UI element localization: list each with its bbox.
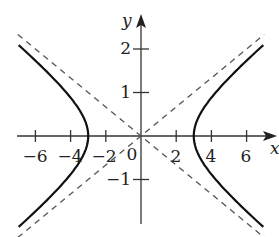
x-tick-label: 6 xyxy=(241,146,252,166)
x-tick-label: 4 xyxy=(206,146,217,166)
x-axis-label: x xyxy=(270,138,279,158)
origin-label: 0 xyxy=(127,144,138,164)
y-tick-label: 1 xyxy=(120,82,131,102)
x-tick-label: −6 xyxy=(22,146,47,166)
y-tick-label: −1 xyxy=(106,169,131,189)
y-tick-label: 2 xyxy=(120,38,131,58)
x-tick-label: −2 xyxy=(91,146,116,166)
x-tick-label: 2 xyxy=(171,146,182,166)
x-tick-label: −4 xyxy=(57,146,82,166)
plot-area: −6 −4 −2 0 2 4 6 2 1 −1 x y xyxy=(17,10,279,237)
hyperbola-chart: −6 −4 −2 0 2 4 6 2 1 −1 x y xyxy=(0,0,279,237)
y-axis-label: y xyxy=(121,10,132,30)
